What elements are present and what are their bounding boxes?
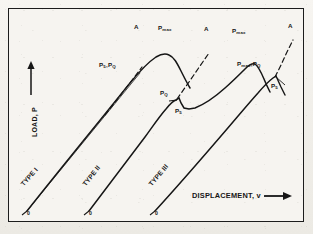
y-axis-arrow-icon <box>27 61 34 95</box>
marker-label-type-2-pq: PQ <box>160 90 168 97</box>
tangent-line-type-2 <box>177 53 209 99</box>
tangent-line-type-3 <box>275 40 293 77</box>
figure-canvas: LOAD, P DISPLACEMENT, v TYPE I TYPE II T… <box>0 0 313 234</box>
x-axis-arrow-icon <box>264 192 292 200</box>
marker-label-type-3-tangent-a: A <box>288 23 293 29</box>
origin-label-type-1: 0 <box>27 211 30 216</box>
marker-label-type-2-p5: P5 <box>175 108 182 115</box>
x-axis-label: DISPLACEMENT, v <box>192 192 261 199</box>
origin-label-type-3: 0 <box>155 211 158 216</box>
marker-label-type-1-pmax: Pmax <box>158 25 172 32</box>
y-axis-label: LOAD, P <box>31 107 38 137</box>
marker-label-type-2-pmax: Pmax <box>232 28 246 35</box>
origin-label-type-2: 0 <box>89 211 92 216</box>
curve-type-1 <box>27 54 190 211</box>
marker-label-type-1-tangent-a: A <box>134 24 139 30</box>
curve-type-2 <box>89 64 270 211</box>
secant-line-type-1 <box>27 73 140 211</box>
marker-label-type-3-pmax-pq: Pmax,PQ <box>237 61 261 68</box>
marker-label-type-2-tangent-a: A <box>204 26 209 32</box>
marker-label-type-1-p5-pq: P5,PQ <box>99 62 116 69</box>
marker-label-type-3-p5: P5 <box>271 83 278 90</box>
figure-border: LOAD, P DISPLACEMENT, v TYPE I TYPE II T… <box>8 8 304 222</box>
